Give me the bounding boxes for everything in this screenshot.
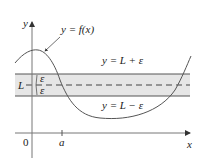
upper-line-label: y = L + ε [101,54,144,66]
curve-label: y = f(x) [60,23,94,36]
x-axis-label: x [186,138,192,150]
limit-diagram: y y = f(x) y = L + ε y = L − ε L ε ε 0 a… [0,0,206,164]
x-tick-label-a: a [59,136,65,148]
lower-epsilon-label: ε [40,84,45,96]
curve-label-pointer [45,37,60,51]
upper-epsilon-label: ε [40,72,45,84]
lower-line-label: y = L − ε [101,99,144,111]
limit-L-label: L [17,79,24,91]
origin-label: 0 [23,136,29,148]
y-axis-label: y [22,17,28,29]
